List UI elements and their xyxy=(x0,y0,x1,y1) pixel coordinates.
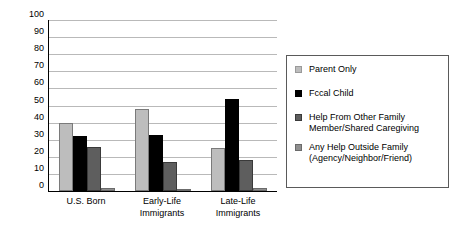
bar xyxy=(211,148,225,191)
plot-wrapper: 100 90 80 70 60 50 40 30 20 10 0 xyxy=(0,0,290,239)
legend-item-label: Help From Other Family Member/Shared Car… xyxy=(309,112,419,134)
x-tick-label-group: U.S. Born xyxy=(48,195,124,219)
legend-item-label: Any Help Outside Family (Agency/Neighbor… xyxy=(309,142,412,164)
legend-swatch-icon xyxy=(295,114,302,121)
x-tick-label-line2: Immigrants xyxy=(200,207,276,219)
bar xyxy=(73,136,87,191)
bar xyxy=(59,123,73,191)
y-tick-label: 60 xyxy=(16,77,44,87)
bar xyxy=(177,189,191,191)
bar xyxy=(149,135,163,191)
x-tick-label-line1: Early-Life xyxy=(124,195,200,207)
bar-group xyxy=(49,20,125,191)
legend-item: Help From Other Family Member/Shared Car… xyxy=(295,112,442,134)
bar xyxy=(225,99,239,191)
legend-item: Any Help Outside Family (Agency/Neighbor… xyxy=(295,142,442,164)
x-tick-label-line2: Immigrants xyxy=(124,207,200,219)
bar xyxy=(163,162,177,191)
bar-groups xyxy=(49,20,277,191)
legend-item: Fccal Child xyxy=(295,88,442,99)
legend-item-label: Parent Only xyxy=(309,64,357,75)
bar xyxy=(239,160,253,191)
x-tick-label-group: Late-Life Immigrants xyxy=(200,195,276,219)
legend-item-label: Fccal Child xyxy=(309,88,354,99)
bar-chart: 100 90 80 70 60 50 40 30 20 10 0 xyxy=(0,0,457,239)
bar xyxy=(253,188,267,191)
y-axis-tick-labels: 100 90 80 70 60 50 40 30 20 10 0 xyxy=(16,14,44,185)
legend-swatch-icon xyxy=(295,90,302,97)
bar xyxy=(87,147,101,191)
x-tick-label-group: Early-Life Immigrants xyxy=(124,195,200,219)
y-tick-label: 10 xyxy=(16,163,44,173)
y-tick-label: 0 xyxy=(16,180,44,190)
bar-group xyxy=(201,20,277,191)
y-tick-label: 50 xyxy=(16,95,44,105)
y-tick-label: 100 xyxy=(16,9,44,19)
x-tick-label-line1: U.S. Born xyxy=(48,195,124,207)
bar-group xyxy=(125,20,201,191)
legend-item: Parent Only xyxy=(295,64,442,75)
bar xyxy=(135,109,149,191)
y-tick-label: 70 xyxy=(16,60,44,70)
y-tick-label: 30 xyxy=(16,129,44,139)
y-tick-label: 40 xyxy=(16,112,44,122)
chart-legend: Parent Only Fccal Child Help From Other … xyxy=(286,55,449,188)
y-tick-label: 80 xyxy=(16,43,44,53)
bar xyxy=(101,188,115,191)
legend-swatch-icon xyxy=(295,66,302,73)
x-axis-tick-labels: U.S. Born Early-Life Immigrants Late-Lif… xyxy=(48,195,276,219)
legend-swatch-icon xyxy=(295,144,302,151)
y-tick-label: 90 xyxy=(16,26,44,36)
plot-area xyxy=(48,20,277,192)
y-tick-label: 20 xyxy=(16,146,44,156)
x-tick-label-line1: Late-Life xyxy=(200,195,276,207)
